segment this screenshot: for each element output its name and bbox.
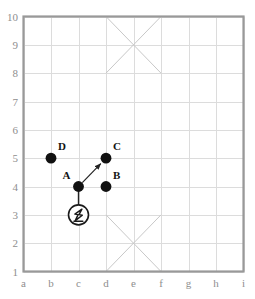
point-label-c: C [113, 141, 121, 152]
point-label-d: D [58, 141, 66, 152]
x-axis-tick-i: i [234, 278, 254, 289]
y-axis-tick-3: 3 [0, 210, 18, 221]
y-axis-tick-8: 8 [0, 68, 18, 79]
point-label-b: B [113, 170, 120, 181]
y-axis-tick-10: 10 [0, 12, 18, 23]
x-axis-tick-h: h [206, 278, 226, 289]
x-axis-tick-f: f [151, 278, 171, 289]
arrow-a-to-c [82, 164, 100, 183]
y-axis-tick-9: 9 [0, 40, 18, 51]
y-axis-tick-5: 5 [0, 153, 18, 164]
y-axis-tick-4: 4 [0, 182, 18, 193]
y-axis-tick-1: 1 [0, 267, 18, 278]
plot-border [24, 17, 244, 272]
x-axis-tick-b: b [41, 278, 61, 289]
point-marker-b [101, 181, 112, 192]
y-axis-tick-2: 2 [0, 238, 18, 249]
point-label-a: A [63, 170, 71, 181]
x-axis-tick-a: a [14, 278, 34, 289]
point-marker-a [73, 181, 84, 192]
point-marker-d [46, 153, 57, 164]
y-axis-tick-6: 6 [0, 125, 18, 136]
x-axis-tick-c: c [69, 278, 89, 289]
grid-lines [24, 17, 245, 273]
x-axis-tick-g: g [179, 278, 199, 289]
diagram-canvas [0, 0, 255, 299]
point-marker-c [101, 153, 112, 164]
circled-robot-icon [69, 205, 89, 225]
x-axis-tick-d: d [96, 278, 116, 289]
grid-diagram: 10987654321 abcdefghi DCAB [0, 0, 255, 299]
x-axis-tick-e: e [124, 278, 144, 289]
y-axis-tick-7: 7 [0, 97, 18, 108]
